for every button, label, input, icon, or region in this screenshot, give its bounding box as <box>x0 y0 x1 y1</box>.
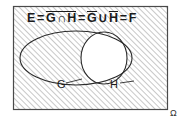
hatched-complement-region <box>13 6 168 110</box>
venn-diagram-figure: E=G∩H=G∪H=F G H Ω <box>0 0 183 123</box>
venn-diagram-canvas <box>0 0 183 123</box>
